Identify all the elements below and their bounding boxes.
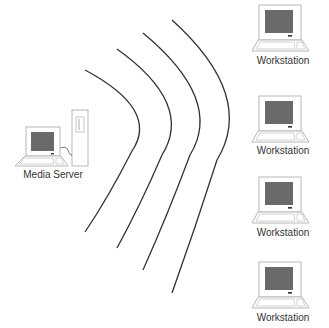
wave-arc-1 [85,70,140,232]
workstation-label: Workstation [257,227,310,238]
workstation-icon[interactable] [252,177,309,223]
wave-arc-4 [172,20,229,293]
workstation-label: Workstation [257,312,310,323]
media-server-label: Media Server [23,169,82,180]
workstation-icon[interactable] [252,96,309,142]
workstation-icon[interactable] [252,262,309,308]
wireless-waves-icon [85,20,229,293]
network-diagram-canvas [0,0,329,328]
workstation-icon[interactable] [252,5,309,51]
wave-arc-2 [117,49,171,248]
media-server-icon[interactable] [15,110,88,166]
wave-arc-3 [143,33,200,270]
workstation-label: Workstation [257,55,310,66]
workstation-label: Workstation [257,145,310,156]
